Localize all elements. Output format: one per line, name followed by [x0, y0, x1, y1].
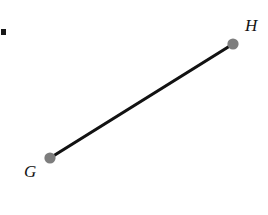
point-label-g: G	[24, 163, 36, 180]
point-label-h: H	[245, 17, 257, 34]
geometry-figure-canvas: G H	[0, 0, 268, 215]
endpoint-dot-h	[227, 38, 238, 49]
endpoint-dot-g	[44, 152, 55, 163]
edge-dot-artifact-icon	[1, 29, 6, 35]
line-segment-diagram	[0, 0, 268, 215]
line-segment-gh	[50, 44, 233, 158]
